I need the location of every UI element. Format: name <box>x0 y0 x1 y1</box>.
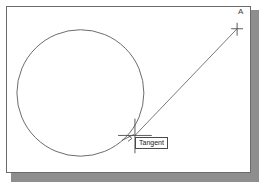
drawing-vector-layer <box>7 7 250 172</box>
circle-entity[interactable] <box>17 30 144 156</box>
cad-screenshot: A Tangent <box>0 0 259 185</box>
osnap-tooltip-tangent: Tangent <box>135 137 168 149</box>
tangent-line-entity[interactable] <box>135 29 237 136</box>
point-a-label: A <box>238 7 243 16</box>
drawing-canvas[interactable] <box>6 6 251 173</box>
